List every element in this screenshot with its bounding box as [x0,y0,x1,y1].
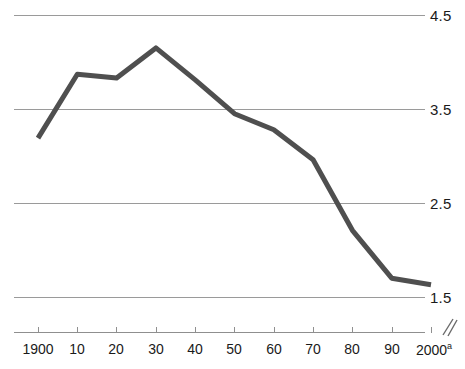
axis-break-icon [440,316,458,338]
x-tick-label-1950: 50 [226,342,242,356]
x-tick-1980 [352,327,353,333]
x-tick-1910 [77,327,78,333]
x-tick-label-1960: 60 [266,342,282,356]
x-tick-1930 [156,327,157,333]
x-tick-2000 [431,327,432,333]
plot-area: 4.5 3.5 2.5 1.5 [0,0,465,320]
x-tick-label-2000-superscript: a [447,341,452,351]
x-tick-1920 [116,327,117,333]
x-tick-1940 [195,327,196,333]
series-line [0,0,465,320]
x-tick-1970 [313,327,314,333]
x-tick-label-1910: 10 [69,342,85,356]
x-tick-label-1970: 70 [305,342,321,356]
x-axis-line [14,332,425,333]
line-chart: 4.5 3.5 2.5 1.5 1900 10 20 30 40 50 60 7… [0,0,465,369]
x-tick-1960 [274,327,275,333]
x-tick-label-1930: 30 [148,342,164,356]
x-tick-label-1980: 80 [344,342,360,356]
x-tick-label-1920: 20 [108,342,124,356]
x-tick-1900 [38,327,39,333]
x-tick-label-2000: 2000a [416,342,452,357]
x-tick-label-2000-text: 2000 [416,342,447,358]
x-tick-1950 [234,327,235,333]
x-tick-label-1940: 40 [187,342,203,356]
x-tick-1990 [392,327,393,333]
x-tick-label-1990: 90 [384,342,400,356]
x-tick-label-1900: 1900 [22,342,53,356]
